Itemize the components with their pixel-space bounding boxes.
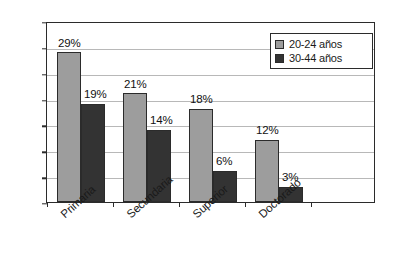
- x-axis-tick-mark: [47, 202, 48, 207]
- bar-group: 18%6%: [189, 23, 237, 202]
- bar-value-label: 29%: [58, 38, 80, 50]
- legend-color-swatch: [275, 40, 284, 49]
- bar[interactable]: [57, 52, 81, 202]
- bar-value-label: 21%: [124, 79, 146, 91]
- bar-value-label: 14%: [150, 115, 172, 127]
- x-axis-tick-mark: [113, 202, 114, 207]
- bar-value-label: 6%: [216, 156, 232, 168]
- legend-item[interactable]: 30-44 años: [275, 51, 368, 65]
- legend-color-swatch: [275, 54, 284, 63]
- legend-item[interactable]: 20-24 años: [275, 37, 368, 51]
- legend-label: 20-24 años: [289, 39, 342, 50]
- x-axis-tick-mark: [179, 202, 180, 207]
- bar-value-label: 18%: [190, 94, 212, 106]
- bar-value-label: 12%: [256, 125, 278, 137]
- bar-group: 29%19%: [57, 23, 105, 202]
- x-axis-tick-mark: [245, 202, 246, 207]
- bar-value-label: 19%: [84, 89, 106, 101]
- bar[interactable]: [189, 109, 213, 202]
- legend: 20-24 años30-44 años: [270, 33, 373, 69]
- bar-chart: 0%5%10%15%20%25%30%35% 29%19%21%14%18%6%…: [0, 0, 406, 275]
- legend-label: 30-44 años: [289, 53, 342, 64]
- bar[interactable]: [123, 93, 147, 202]
- x-axis-tick-mark: [311, 202, 312, 207]
